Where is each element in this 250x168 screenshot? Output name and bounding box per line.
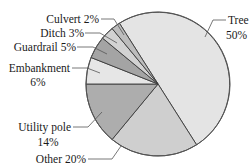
label-tree-pct: 50% (226, 29, 248, 41)
pie-chart: Tree 50% Culvert 2% Ditch 3% Guardrail 5… (0, 0, 250, 168)
pie-slices (86, 12, 230, 156)
label-utility-pct: 14% (37, 136, 59, 148)
label-ditch: Ditch 3% (40, 27, 84, 39)
leader-other (88, 146, 121, 159)
label-other: Other 20% (36, 153, 87, 165)
label-embankment: Embankment (9, 62, 71, 74)
label-culvert: Culvert 2% (46, 13, 99, 25)
label-embankment-pct: 6% (30, 76, 46, 88)
label-utility: Utility pole (18, 121, 71, 134)
label-tree: Tree (228, 14, 249, 26)
label-guardrail: Guardrail 5% (14, 41, 77, 53)
